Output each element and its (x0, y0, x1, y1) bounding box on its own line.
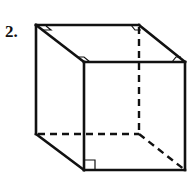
right-angle-marker-front-bottom-left (84, 160, 95, 170)
cube-diagram (0, 0, 196, 186)
edge-bottom-left (36, 134, 84, 170)
hidden-edge-bottom-right (139, 134, 185, 170)
right-angle-marker-back-top-left (43, 26, 51, 30)
